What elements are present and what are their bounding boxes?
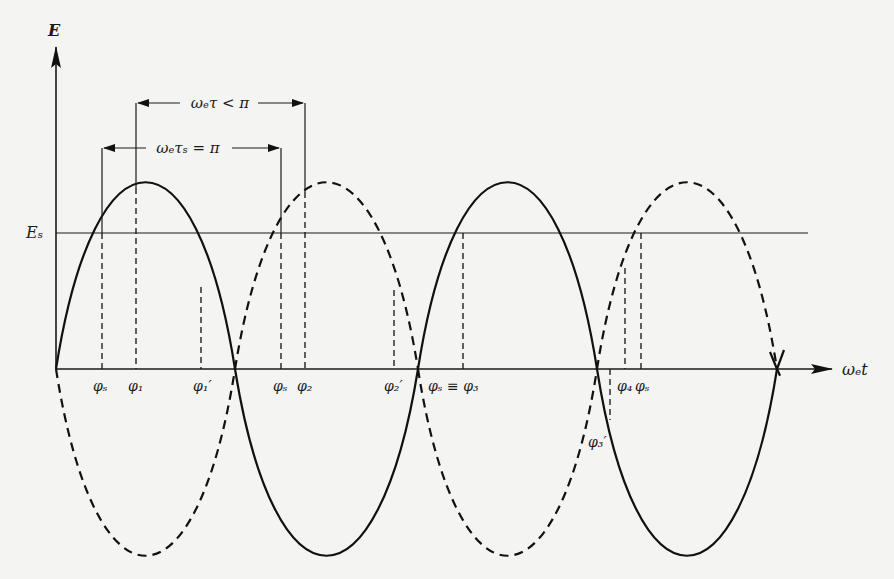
dimension-top-label: ωₑτ < π [191, 94, 250, 112]
phase-labels: φₛ φ₁ φ₁′ φₛ φ₂ φ₂′ φₛ ≡ φ₃ φ₃′ φ₄ φₛ [93, 378, 650, 450]
phase-label: φ₁′ [193, 378, 212, 394]
phase-label: φₛ [635, 378, 650, 394]
phase-label: φ₃′ [588, 434, 607, 450]
phase-label: φ₂ [297, 378, 313, 394]
phase-label: φ₄ [617, 378, 633, 394]
dimension-bottom-label: ωₑτₛ = π [156, 139, 220, 157]
phase-label: φ₂′ [384, 378, 403, 394]
negative-half-waves [56, 369, 777, 556]
waveform-diagram: ωₑτ < π ωₑτₛ = π E ωₑt Eₛ φₛ φ₁ φ₁′ φₛ φ… [0, 0, 894, 579]
threshold-label: Eₛ [25, 223, 43, 242]
positive-arc-2 [235, 182, 418, 369]
negative-arc-1 [56, 369, 235, 556]
negative-arc-3 [418, 369, 597, 556]
positive-arc-3 [418, 182, 597, 369]
negative-arc-2 [235, 369, 418, 556]
tail-stroke [770, 350, 784, 369]
y-axis-label: E [47, 21, 61, 40]
phase-label: φₛ ≡ φ₃ [428, 378, 479, 394]
dimension-bottom: ωₑτₛ = π [104, 139, 279, 157]
x-axis-label: ωₑt [842, 360, 868, 379]
positive-half-waves [56, 182, 784, 380]
phase-label: φ₁ [128, 378, 143, 394]
phase-label: φₛ [273, 378, 288, 394]
dimension-top: ωₑτ < π [138, 94, 303, 112]
phase-label: φₛ [93, 378, 108, 394]
negative-arc-4 [597, 369, 777, 556]
positive-arc-1 [56, 182, 235, 369]
